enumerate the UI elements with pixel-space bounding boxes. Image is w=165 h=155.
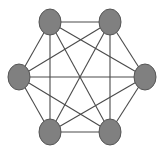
complete-graph-diagram (0, 0, 165, 155)
node-top-left (39, 9, 61, 35)
node-bottom-right (99, 119, 121, 145)
node-top-right (99, 9, 121, 35)
edges-group (19, 22, 145, 132)
node-bottom-left (39, 119, 61, 145)
node-middle-right (134, 64, 156, 90)
node-middle-left (8, 64, 30, 90)
